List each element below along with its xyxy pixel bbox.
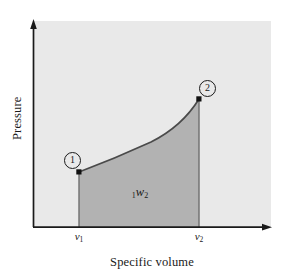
work-symbol: w [136,185,144,199]
work-area-label: 1w2 [112,186,168,200]
v2-subscript: 2 [200,235,204,244]
state-2-label: 2 [199,80,216,97]
plot-canvas [0,0,282,278]
v1-subscript: 1 [80,235,84,244]
y-axis-label: Pressure [11,80,24,156]
x-tick-label-v1: v1 [65,231,93,243]
x-tick-label-v2: v2 [185,231,213,243]
state-2-point-marker [196,96,201,101]
state-1-label: 1 [64,152,81,169]
state-1-point-marker [76,169,81,174]
x-axis-label: Specific volume [66,256,238,269]
pv-diagram-figure: Pressure Specific volume v1 v2 1w2 1 2 [0,0,282,278]
work-post-subscript: 2 [144,191,148,200]
